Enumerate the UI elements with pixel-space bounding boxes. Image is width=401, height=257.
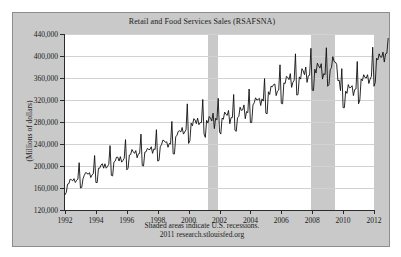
x-axis-tick	[250, 210, 251, 214]
x-axis-tick	[281, 210, 282, 214]
chart-title: Retail and Food Services Sales (RSAFSNA)	[13, 17, 391, 26]
y-axis-title: (Millions of dollars)	[25, 101, 34, 162]
retail-sales-line	[65, 34, 374, 210]
x-axis-tick	[374, 210, 375, 214]
footnote-recessions: Shaded areas indicate U.S. recessions.	[13, 221, 391, 230]
chart-footnote: Shaded areas indicate U.S. recessions. 2…	[13, 221, 391, 239]
footnote-source: 2011 research.stlouisfed.org	[13, 230, 391, 239]
series-layer	[65, 34, 374, 210]
y-axis-tick-label: 160,000	[34, 184, 58, 193]
x-axis-tick	[158, 210, 159, 214]
plot-area: 120,000160,000200,000240,000280,000320,0…	[64, 34, 374, 211]
y-axis-tick-label: 320,000	[34, 96, 58, 105]
y-axis-tick-label: 360,000	[34, 74, 58, 83]
y-axis-tick-label: 280,000	[34, 118, 58, 127]
x-axis-tick	[65, 210, 66, 214]
y-axis-tick-label: 400,000	[34, 52, 58, 61]
y-axis-tick-label: 240,000	[34, 140, 58, 149]
x-axis-tick	[127, 210, 128, 214]
x-axis-tick	[96, 210, 97, 214]
x-axis-tick	[343, 210, 344, 214]
y-axis-tick-label: 200,000	[34, 162, 58, 171]
x-axis-tick	[189, 210, 190, 214]
figure-root: Retail and Food Services Sales (RSAFSNA)…	[0, 0, 401, 257]
x-axis-tick	[312, 210, 313, 214]
y-axis-tick-label: 440,000	[34, 30, 58, 39]
y-axis-tick-label: 120,000	[34, 206, 58, 215]
x-axis-tick	[220, 210, 221, 214]
chart-panel: Retail and Food Services Sales (RSAFSNA)…	[12, 12, 390, 247]
